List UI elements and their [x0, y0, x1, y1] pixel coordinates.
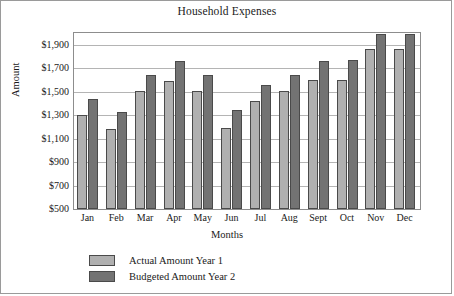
- x-axis-tick-label: May: [188, 212, 217, 223]
- legend-swatch: [89, 271, 115, 282]
- bar-group: [218, 33, 247, 209]
- bar[interactable]: [164, 81, 174, 209]
- bar[interactable]: [348, 60, 358, 209]
- x-axis-tick-label: Sept: [304, 212, 333, 223]
- bar[interactable]: [337, 80, 347, 209]
- bar[interactable]: [250, 101, 260, 209]
- bar[interactable]: [192, 91, 202, 209]
- bar[interactable]: [135, 91, 145, 209]
- bar[interactable]: [175, 61, 185, 209]
- legend-label: Actual Amount Year 1: [129, 255, 223, 266]
- y-axis-tick-label: $1,300: [9, 109, 69, 120]
- bar[interactable]: [376, 34, 386, 209]
- x-axis-title: Months: [1, 229, 453, 240]
- bar[interactable]: [405, 34, 415, 209]
- bar[interactable]: [203, 75, 213, 209]
- x-axis-tick-label: Feb: [102, 212, 131, 223]
- bar[interactable]: [308, 80, 318, 209]
- bar-group: [247, 33, 276, 209]
- y-axis-tick-label: $700: [9, 179, 69, 190]
- bar-group: [276, 33, 305, 209]
- x-axis-tick-label: Dec: [390, 212, 419, 223]
- bar-group: [103, 33, 132, 209]
- x-axis-tick-label: Jun: [217, 212, 246, 223]
- bar[interactable]: [77, 115, 87, 209]
- bar-series-container: [74, 33, 420, 209]
- bar[interactable]: [261, 85, 271, 209]
- bar-group: [161, 33, 190, 209]
- y-axis-tick-label: $1,500: [9, 85, 69, 96]
- bar[interactable]: [290, 75, 300, 209]
- y-axis-tick-label: $500: [9, 203, 69, 214]
- bar[interactable]: [279, 91, 289, 210]
- legend-label: Budgeted Amount Year 2: [129, 271, 235, 282]
- x-axis-tick-label: Jan: [73, 212, 102, 223]
- bar-group: [391, 33, 420, 209]
- bar[interactable]: [117, 112, 127, 209]
- chart-title: Household Expenses: [1, 5, 453, 17]
- bar[interactable]: [394, 49, 404, 209]
- x-axis-tick-label: Aug: [275, 212, 304, 223]
- x-axis-tick-label: Oct: [333, 212, 362, 223]
- legend-swatch: [89, 255, 115, 266]
- legend-item[interactable]: Actual Amount Year 1: [89, 252, 235, 268]
- x-axis-tick-label: Apr: [160, 212, 189, 223]
- bar-group: [74, 33, 103, 209]
- y-axis-tick-label: $1,700: [9, 62, 69, 73]
- bar[interactable]: [221, 128, 231, 209]
- chart-figure: Household Expenses Amount $500$700$900$1…: [0, 0, 452, 294]
- x-axis-tick-label: Mar: [131, 212, 160, 223]
- bar-group: [189, 33, 218, 209]
- bar-group: [305, 33, 334, 209]
- bar[interactable]: [365, 49, 375, 209]
- bar[interactable]: [146, 75, 156, 209]
- bar[interactable]: [106, 129, 116, 209]
- chart-legend: Actual Amount Year 1Budgeted Amount Year…: [89, 252, 235, 284]
- x-axis-tick-label: Jul: [246, 212, 275, 223]
- bar[interactable]: [319, 61, 329, 209]
- x-axis-tick-label: Nov: [361, 212, 390, 223]
- bar-group: [362, 33, 391, 209]
- plot-area: [73, 32, 421, 210]
- y-axis-tick-label: $1,100: [9, 132, 69, 143]
- bar[interactable]: [232, 110, 242, 209]
- legend-item[interactable]: Budgeted Amount Year 2: [89, 268, 235, 284]
- y-axis-tick-label: $900: [9, 156, 69, 167]
- bar-group: [132, 33, 161, 209]
- y-axis-tick-label: $1,900: [9, 38, 69, 49]
- x-axis-tick-labels: JanFebMarAprMayJunJulAugSeptOctNovDec: [73, 212, 421, 228]
- bar[interactable]: [88, 99, 98, 209]
- bar-group: [334, 33, 363, 209]
